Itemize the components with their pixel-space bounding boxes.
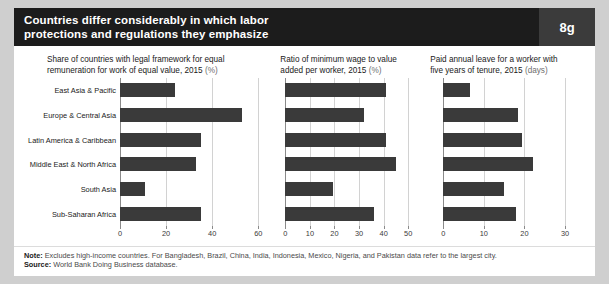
bar: [285, 133, 386, 147]
bar: [285, 182, 333, 196]
gridline: [565, 78, 566, 226]
gridline: [484, 78, 485, 226]
gridline: [310, 78, 311, 226]
bar: [120, 83, 175, 97]
bar: [120, 133, 201, 147]
gridline: [212, 78, 213, 226]
tick-label: 10: [480, 229, 488, 238]
gridline: [384, 78, 385, 226]
bar: [285, 207, 373, 221]
tick-label: 50: [404, 229, 412, 238]
tick-label: 10: [306, 229, 314, 238]
bar: [443, 157, 532, 171]
bar: [443, 83, 469, 97]
source-line: Source: World Bank Doing Business databa…: [24, 260, 585, 270]
chart-3-tick-row: 0102030: [443, 226, 565, 240]
gridline: [258, 78, 259, 226]
chart-1-axis-area: [120, 78, 258, 226]
bar: [120, 207, 201, 221]
chart-2-title-line-1: Ratio of minimum wage to value: [280, 55, 397, 64]
category-label: Middle East & North Africa: [30, 160, 116, 169]
bar: [120, 108, 242, 122]
source-label: Source:: [24, 260, 51, 269]
gridline: [120, 78, 121, 226]
tick-label: 20: [520, 229, 528, 238]
chart-2-title-line-2: added per worker, 2015: [280, 66, 366, 75]
tick-label: 20: [162, 229, 170, 238]
chart-1-plot: East Asia & PacificEurope & Central Asia…: [22, 78, 280, 226]
gridline: [285, 78, 286, 226]
chart-3-unit: (days): [525, 66, 548, 75]
figure-footer: Note: Excludes high-income countries. Fo…: [14, 246, 595, 276]
chart-2-axis-area: [285, 78, 408, 226]
chart-1-tick-row: 0204060: [120, 226, 258, 240]
chart-1-category-labels: East Asia & PacificEurope & Central Asia…: [22, 78, 120, 226]
chart-panel-2: Ratio of minimum wage to value added per…: [280, 55, 430, 246]
bar: [285, 157, 396, 171]
tick-label: 30: [561, 229, 569, 238]
category-label: Sub-Saharan Africa: [52, 209, 116, 218]
category-label: Europe & Central Asia: [43, 111, 116, 120]
page-background: Countries differ considerably in which l…: [0, 0, 609, 284]
chart-2-unit: (%): [369, 66, 382, 75]
tick-label: 0: [441, 229, 445, 238]
tick-label: 0: [283, 229, 287, 238]
source-text: World Bank Doing Business database.: [51, 260, 177, 269]
figure-title-line-1: Countries differ considerably in which l…: [24, 13, 269, 27]
figure-title-line-2: protections and regulations they emphasi…: [24, 27, 269, 41]
tick-label: 30: [355, 229, 363, 238]
gridline: [443, 78, 444, 226]
chart-panel-3: Paid annual leave for a worker with five…: [430, 55, 587, 246]
category-label: Latin America & Caribbean: [28, 135, 116, 144]
bar: [285, 108, 364, 122]
bar: [443, 182, 504, 196]
chart-1-title-line-1: Share of countries with legal framework …: [47, 55, 224, 64]
chart-3-title-line-2: five years of tenure, 2015: [430, 66, 522, 75]
chart-3-axis-area: [443, 78, 565, 226]
chart-3-title: Paid annual leave for a worker with five…: [430, 55, 587, 78]
bar: [120, 182, 145, 196]
chart-2-title: Ratio of minimum wage to value added per…: [280, 55, 430, 78]
gridline: [166, 78, 167, 226]
gridline: [524, 78, 525, 226]
chart-panel-1: Share of countries with legal framework …: [22, 55, 280, 246]
bar: [285, 83, 386, 97]
gridline: [359, 78, 360, 226]
chart-3-plot: 0102030: [430, 78, 587, 226]
bar: [443, 207, 516, 221]
tick-label: 60: [254, 229, 262, 238]
tick-label: 40: [208, 229, 216, 238]
figure-title: Countries differ considerably in which l…: [14, 13, 269, 41]
category-label: South Asia: [81, 185, 116, 194]
note-text: Excludes high-income countries. For Bang…: [43, 251, 497, 260]
chart-2-plot: 01020304050: [280, 78, 430, 226]
bar: [443, 108, 518, 122]
note-line: Note: Excludes high-income countries. Fo…: [24, 251, 585, 261]
category-label: East Asia & Pacific: [54, 86, 116, 95]
gridline: [408, 78, 409, 226]
chart-1-title: Share of countries with legal framework …: [22, 55, 280, 78]
charts-container: Share of countries with legal framework …: [14, 46, 595, 246]
figure-number-badge: 8g: [539, 8, 595, 46]
figure-card: Countries differ considerably in which l…: [14, 8, 595, 276]
tick-label: 40: [380, 229, 388, 238]
tick-label: 20: [330, 229, 338, 238]
chart-2-tick-row: 01020304050: [285, 226, 408, 240]
bar: [443, 133, 522, 147]
chart-1-unit: (%): [205, 66, 218, 75]
bar: [120, 157, 196, 171]
tick-label: 0: [118, 229, 122, 238]
chart-3-title-line-1: Paid annual leave for a worker with: [430, 55, 557, 64]
note-label: Note:: [24, 251, 43, 260]
chart-1-title-line-2: remuneration for work of equal value, 20…: [47, 66, 203, 75]
gridline: [334, 78, 335, 226]
figure-header: Countries differ considerably in which l…: [14, 8, 595, 46]
